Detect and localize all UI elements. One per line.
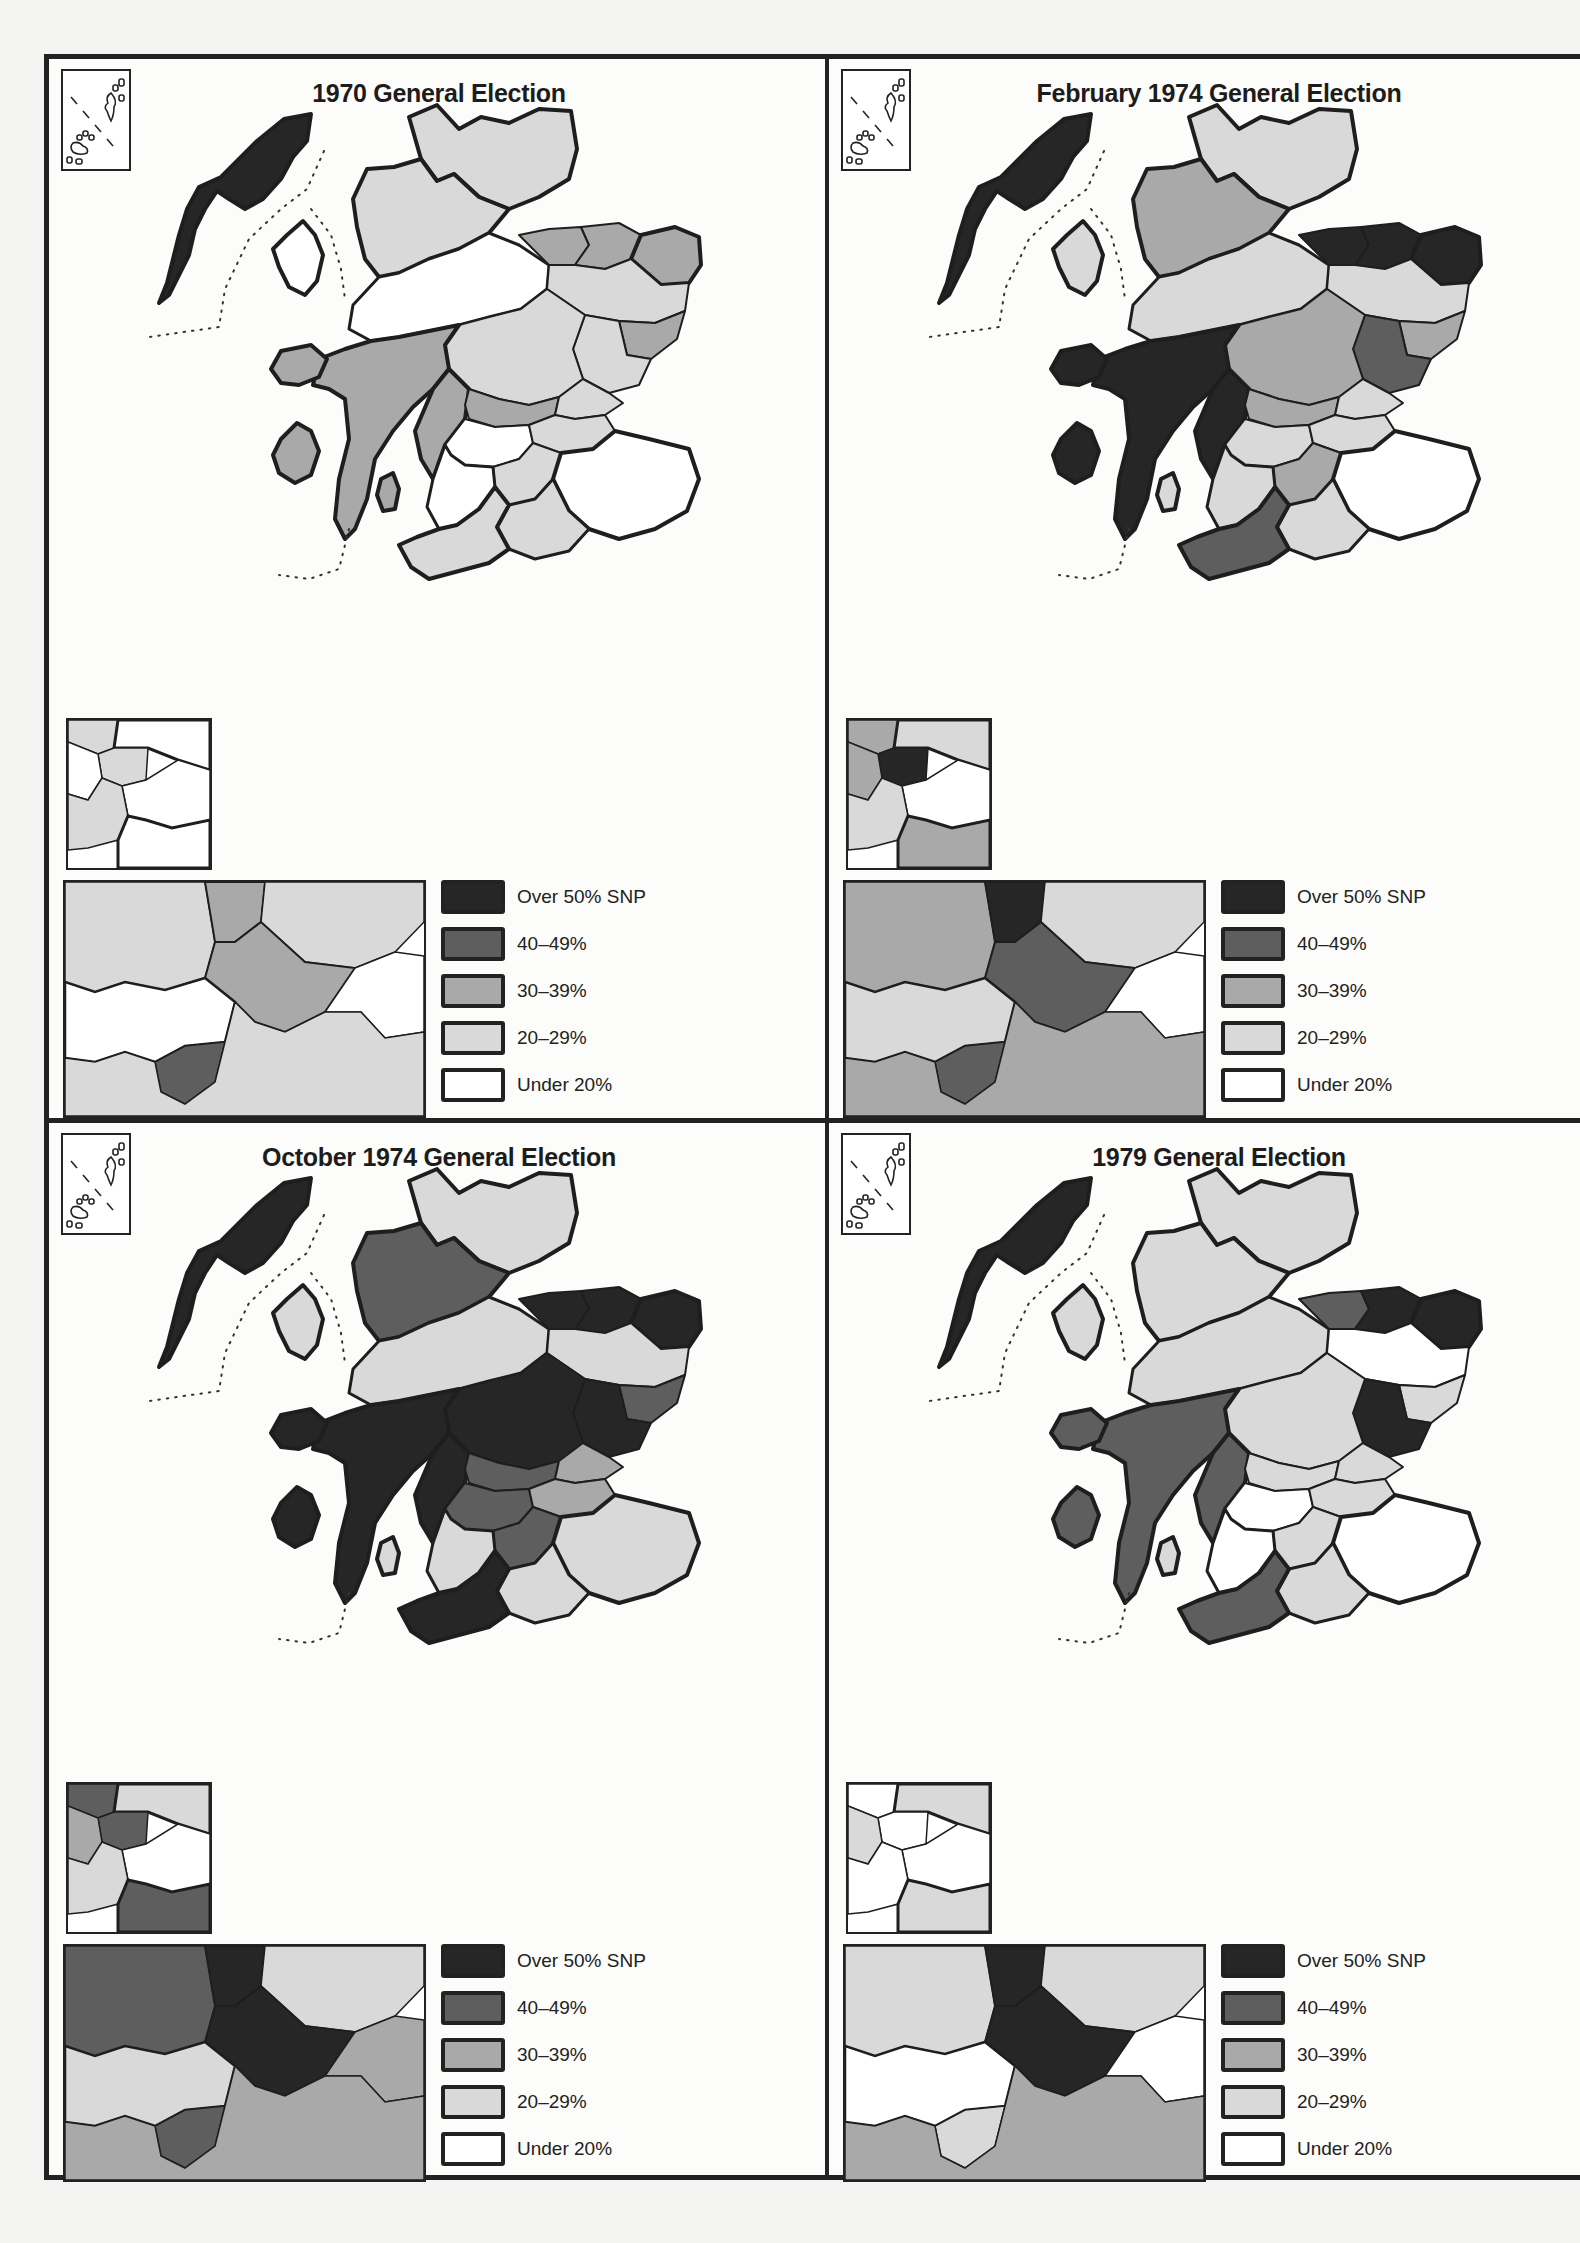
region-skye (1053, 1285, 1103, 1359)
region-arran (377, 1537, 399, 1575)
legend-swatch-30-39 (1221, 2038, 1285, 2072)
election-map-panel-4: 1979 General Election (829, 1123, 1580, 2183)
legend-item-over50: Over 50% SNP (1221, 878, 1521, 916)
election-map-panel-3: October 1974 General Election (49, 1123, 829, 2183)
central-belt-inset (63, 1944, 426, 2182)
legend-swatch-40-49 (1221, 1991, 1285, 2025)
legend-label: 40–49% (517, 1997, 587, 2019)
legend-item-20-29: 20–29% (1221, 1019, 1521, 1057)
legend-label: Under 20% (517, 2138, 612, 2160)
region-mull (271, 345, 327, 385)
legend-label: 20–29% (1297, 2091, 1367, 2113)
region-arran (1157, 473, 1179, 511)
legend-swatch-over50 (441, 1944, 505, 1978)
legend-swatch-40-49 (441, 1991, 505, 2025)
sea-boundary-dotted (279, 529, 349, 579)
legend-label: Over 50% SNP (517, 1950, 646, 1972)
legend-label: Over 50% SNP (1297, 886, 1426, 908)
legend-swatch-40-49 (441, 927, 505, 961)
legend-item-40-49: 40–49% (441, 925, 741, 963)
legend-label: Over 50% SNP (517, 886, 646, 908)
region-arran (1157, 1537, 1179, 1575)
legend-label: 40–49% (1297, 933, 1367, 955)
legend-item-20-29: 20–29% (441, 2083, 741, 2121)
glasgow-inset (66, 718, 212, 870)
central-belt-inset (843, 880, 1206, 1118)
legend-item-20-29: 20–29% (1221, 2083, 1521, 2121)
region-islay-jura (273, 1487, 319, 1547)
central-belt-inset (63, 880, 426, 1118)
central-belt-inset (843, 1944, 1206, 2182)
legend-swatch-under20 (441, 2132, 505, 2166)
region-mull (1051, 1409, 1107, 1449)
legend-label: Under 20% (1297, 2138, 1392, 2160)
legend-label: 20–29% (1297, 1027, 1367, 1049)
legend-item-under20: Under 20% (441, 1066, 741, 1104)
legend-swatch-30-39 (1221, 974, 1285, 1008)
region-islay-jura (273, 423, 319, 483)
region-arran (377, 473, 399, 511)
sea-boundary-dotted (279, 1593, 349, 1643)
election-map-panel-2: February 1974 General Election (829, 59, 1580, 1119)
legend-item-40-49: 40–49% (441, 1989, 741, 2027)
legend-swatch-over50 (441, 880, 505, 914)
legend-item-30-39: 30–39% (1221, 972, 1521, 1010)
legend-label: Over 50% SNP (1297, 1950, 1426, 1972)
constituency-regions (939, 105, 1481, 579)
legend-item-40-49: 40–49% (1221, 925, 1521, 963)
legend-swatch-under20 (441, 1068, 505, 1102)
legend-item-30-39: 30–39% (441, 2036, 741, 2074)
legend-swatch-over50 (1221, 880, 1285, 914)
legend-swatch-20-29 (441, 2085, 505, 2119)
glasgow-inset (846, 1782, 992, 1934)
legend-label: 30–39% (1297, 2044, 1367, 2066)
legend-swatch-20-29 (1221, 1021, 1285, 1055)
legend-swatch-over50 (1221, 1944, 1285, 1978)
legend-label: 20–29% (517, 1027, 587, 1049)
glasgow-inset (846, 718, 992, 870)
region-mull (1051, 345, 1107, 385)
region-skye (273, 221, 323, 295)
legend-label: 30–39% (517, 2044, 587, 2066)
region-mull (271, 1409, 327, 1449)
legend-swatch-under20 (1221, 1068, 1285, 1102)
constituency-regions (159, 105, 701, 579)
legend-item-over50: Over 50% SNP (441, 878, 741, 916)
region-skye (1053, 221, 1103, 295)
legend-label: 30–39% (517, 980, 587, 1002)
legend-swatch-20-29 (1221, 2085, 1285, 2119)
legend-swatch-under20 (1221, 2132, 1285, 2166)
legend-item-30-39: 30–39% (441, 972, 741, 1010)
legend-item-under20: Under 20% (1221, 2130, 1521, 2168)
legend-item-30-39: 30–39% (1221, 2036, 1521, 2074)
legend-item-40-49: 40–49% (1221, 1989, 1521, 2027)
legend-label: Under 20% (517, 1074, 612, 1096)
legend-label: Under 20% (1297, 1074, 1392, 1096)
legend-label: 20–29% (517, 2091, 587, 2113)
legend-item-under20: Under 20% (1221, 1066, 1521, 1104)
legend-swatch-40-49 (1221, 927, 1285, 961)
election-map-panel-1: 1970 General Election (49, 59, 829, 1119)
sea-boundary-dotted (1059, 529, 1129, 579)
legend-item-over50: Over 50% SNP (1221, 1942, 1521, 1980)
constituency-regions (159, 1169, 701, 1643)
legend-label: 30–39% (1297, 980, 1367, 1002)
constituency-regions (939, 1169, 1481, 1643)
region-skye (273, 1285, 323, 1359)
region-islay-jura (1053, 1487, 1099, 1547)
glasgow-inset (66, 1782, 212, 1934)
legend-swatch-30-39 (441, 974, 505, 1008)
region-islay-jura (1053, 423, 1099, 483)
legend-item-over50: Over 50% SNP (441, 1942, 741, 1980)
legend-label: 40–49% (517, 933, 587, 955)
sea-boundary-dotted (1059, 1593, 1129, 1643)
legend-swatch-20-29 (441, 1021, 505, 1055)
legend-item-20-29: 20–29% (441, 1019, 741, 1057)
legend-swatch-30-39 (441, 2038, 505, 2072)
legend-item-under20: Under 20% (441, 2130, 741, 2168)
legend-label: 40–49% (1297, 1997, 1367, 2019)
